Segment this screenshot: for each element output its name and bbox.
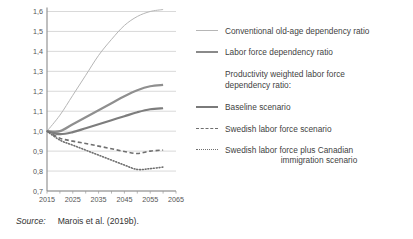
legend-label-labor-force: Labor force dependency ratio bbox=[225, 47, 413, 57]
legend-label-baseline: Baseline scenario bbox=[225, 102, 413, 112]
legend-key-dashed-line-icon bbox=[196, 128, 218, 137]
figure-container: 0,70,80,91,01,11,21,31,41,51,6 201520252… bbox=[0, 0, 413, 239]
series-line-4 bbox=[47, 131, 163, 169]
source-citation: Marois et al. (2019b). bbox=[58, 216, 139, 226]
svg-text:1,6: 1,6 bbox=[33, 7, 43, 16]
svg-text:0,8: 0,8 bbox=[33, 167, 43, 176]
svg-text:1,4: 1,4 bbox=[33, 47, 43, 56]
source-note: Source:Marois et al. (2019b). bbox=[16, 216, 139, 226]
svg-text:1,1: 1,1 bbox=[33, 107, 43, 116]
data-series-layer bbox=[47, 10, 163, 170]
legend-label-swedish-canadian-line1: Swedish labor force plus Canadian bbox=[225, 145, 353, 155]
legend-key-solid-line-icon bbox=[196, 106, 218, 115]
legend-key-thick-line-icon bbox=[196, 51, 218, 60]
legend-item-swedish-canadian[interactable]: Swedish labor force plus Canadian immigr… bbox=[196, 145, 413, 166]
svg-text:2065: 2065 bbox=[168, 195, 184, 204]
legend-label-conventional: Conventional old-age dependency ratio bbox=[225, 26, 413, 36]
svg-text:1,5: 1,5 bbox=[33, 27, 43, 36]
svg-text:2045: 2045 bbox=[116, 195, 132, 204]
legend-item-labor-force[interactable]: Labor force dependency ratio bbox=[196, 47, 413, 57]
legend-label-swedish: Swedish labor force scenario bbox=[225, 124, 413, 134]
svg-text:2015: 2015 bbox=[39, 195, 55, 204]
legend-item-baseline[interactable]: Baseline scenario bbox=[196, 102, 413, 112]
legend-item-swedish[interactable]: Swedish labor force scenario bbox=[196, 124, 413, 134]
chart-legend: Conventional old-age dependency ratio La… bbox=[196, 26, 413, 177]
svg-text:2055: 2055 bbox=[142, 195, 158, 204]
legend-key-thin-line-icon bbox=[196, 30, 218, 39]
svg-text:1,2: 1,2 bbox=[33, 87, 43, 96]
y-axis-tick-labels: 0,70,80,91,01,11,21,31,41,51,6 bbox=[33, 7, 43, 196]
legend-item-conventional[interactable]: Conventional old-age dependency ratio bbox=[196, 26, 413, 36]
legend-label-swedish-canadian-line2: immigration scenario bbox=[225, 155, 413, 165]
svg-text:1,0: 1,0 bbox=[33, 127, 43, 136]
x-axis-tick-labels: 201520252035204520552065 bbox=[39, 195, 184, 204]
svg-text:2025: 2025 bbox=[65, 195, 81, 204]
legend-group-heading-line1: Productivity weighted labor force bbox=[225, 69, 413, 80]
legend-label-swedish-canadian: Swedish labor force plus Canadian immigr… bbox=[225, 145, 413, 166]
legend-group-heading: Productivity weighted labor force depend… bbox=[196, 69, 413, 91]
source-label: Source: bbox=[16, 216, 46, 226]
legend-group-heading-line2: dependency ratio: bbox=[225, 80, 413, 91]
series-line-0 bbox=[47, 10, 163, 132]
gridlines bbox=[47, 12, 176, 192]
svg-text:1,3: 1,3 bbox=[33, 67, 43, 76]
legend-key-dotted-line-icon bbox=[196, 149, 218, 158]
svg-text:2035: 2035 bbox=[91, 195, 107, 204]
svg-text:0,9: 0,9 bbox=[33, 147, 43, 156]
